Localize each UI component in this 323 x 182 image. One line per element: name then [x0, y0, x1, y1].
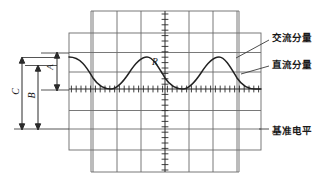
leader-ac-component — [236, 40, 269, 58]
dimension-label-b: B — [26, 92, 37, 98]
leader-dc-component — [241, 66, 269, 74]
figure-canvas: 交流分量 直流分量 基准电平 A B C R — [0, 0, 323, 182]
callout-label-reference-level: 基准电平 — [272, 123, 312, 137]
callout-label-dc-component: 直流分量 — [272, 57, 312, 71]
dimension-arrows — [14, 52, 69, 130]
callout-leader-lines — [236, 40, 269, 129]
diagram-svg — [0, 0, 323, 182]
graticule-group — [69, 11, 261, 172]
dimension-arrow-c — [14, 57, 69, 130]
dimension-label-a: A — [45, 64, 55, 70]
callout-label-ac-component: 交流分量 — [272, 30, 312, 44]
waveform-marker-r-label: R — [152, 57, 158, 67]
dimension-label-c: C — [10, 88, 21, 95]
